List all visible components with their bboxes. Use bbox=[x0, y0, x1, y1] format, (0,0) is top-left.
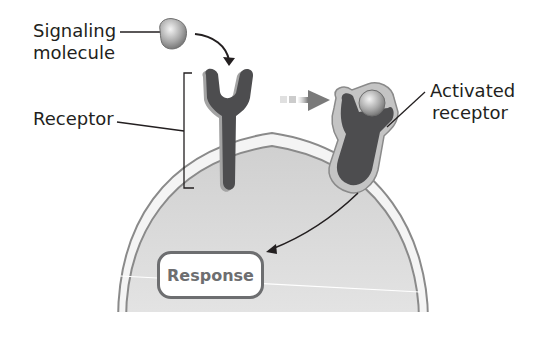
cell bbox=[100, 133, 440, 341]
bound-molecule bbox=[359, 90, 385, 116]
label-receptor: Receptor bbox=[33, 108, 114, 130]
activation-arrow bbox=[280, 90, 330, 111]
binding-arrowhead bbox=[223, 57, 235, 66]
label-activated-receptor-line2: receptor bbox=[432, 102, 508, 124]
label-activated-receptor-line1: Activated bbox=[430, 80, 515, 102]
label-signaling-molecule-line1: Signaling bbox=[33, 20, 116, 42]
response-label: Response bbox=[167, 266, 254, 285]
activated-receptor bbox=[329, 83, 425, 193]
signaling-molecule bbox=[120, 19, 187, 49]
binding-arrow bbox=[195, 34, 229, 60]
response-box: Response bbox=[157, 251, 264, 299]
cell-signaling-diagram: Signaling molecule Receptor Activated re… bbox=[0, 0, 536, 341]
label-signaling-molecule-line2: molecule bbox=[33, 42, 115, 64]
